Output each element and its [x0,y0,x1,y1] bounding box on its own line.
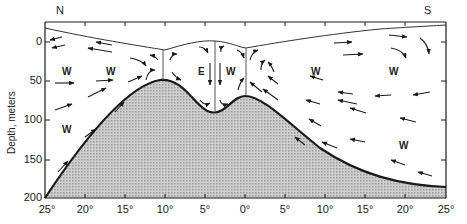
x-tick-label: 5° [190,203,220,215]
water-mass-label: W [311,66,320,77]
x-tick-label: 20° [390,203,420,215]
x-tick-label: 5° [270,203,300,215]
water-mass-label: W [106,66,115,77]
x-tick-label: 0° [230,203,260,215]
x-tick-label: 25° [32,203,62,215]
y-tick-label: 150 [12,153,42,165]
x-tick-label: 10° [150,203,180,215]
x-tick-label: 20° [70,203,100,215]
water-mass-label: W [389,66,398,77]
water-mass-label: W [62,66,71,77]
x-tick-label: 15° [350,203,380,215]
water-mass-label: W [226,66,235,77]
y-tick-label: 200 [12,191,42,203]
x-tick-label: 25° [431,203,461,215]
compass-south-label: S [424,4,431,16]
x-tick-label: 10° [310,203,340,215]
sea-surface-line [45,25,446,50]
y-tick-label: 0 [12,35,42,47]
x-tick-label: 15° [110,203,140,215]
compass-north-label: N [56,4,64,16]
seafloor-area [45,80,446,198]
water-mass-label: W [62,124,71,135]
y-tick-label: 100 [12,113,42,125]
y-tick-label: 50 [12,74,42,86]
water-mass-label: W [399,140,408,151]
water-mass-label: E [198,66,205,77]
cross-section-figure [0,0,467,224]
